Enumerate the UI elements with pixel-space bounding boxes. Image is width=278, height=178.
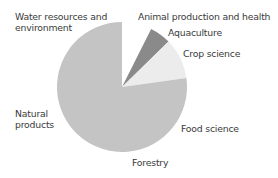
label-aquaculture: Aquaculture	[168, 27, 222, 38]
label-line: Water resources and	[15, 11, 107, 22]
label-line: products	[15, 119, 54, 130]
pie-slices	[57, 22, 187, 152]
label-line: Natural	[15, 108, 54, 119]
label-natural-products: Natural products	[15, 108, 54, 130]
label-crop-science: Crop science	[183, 48, 240, 59]
label-food-science: Food science	[181, 123, 239, 134]
label-line: environment	[15, 22, 107, 33]
label-water-resources: Water resources and environment	[15, 11, 107, 33]
label-forestry: Forestry	[132, 157, 168, 168]
label-animal-production: Animal production and health	[138, 11, 270, 22]
